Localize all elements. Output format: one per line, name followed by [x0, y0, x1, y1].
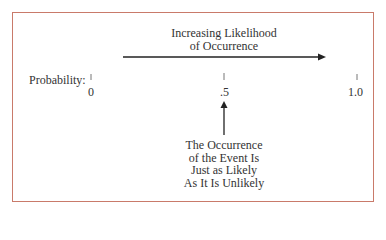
note-line: The Occurrence — [174, 139, 274, 152]
tick-label-1: 1.0 — [348, 86, 363, 98]
axis-label: Probability: — [29, 74, 86, 86]
midpoint-arrow-icon — [221, 101, 228, 135]
increasing-arrow-icon — [123, 54, 326, 61]
note-line: Just as Likely — [174, 164, 274, 177]
midpoint-note: The Occurrence of the Event Is Just as L… — [174, 139, 274, 189]
tick-label-0: 0 — [88, 86, 94, 98]
tick-label-half: .5 — [220, 86, 229, 98]
probability-axis — [91, 73, 357, 80]
note-line: As It Is Unlikely — [174, 177, 274, 190]
